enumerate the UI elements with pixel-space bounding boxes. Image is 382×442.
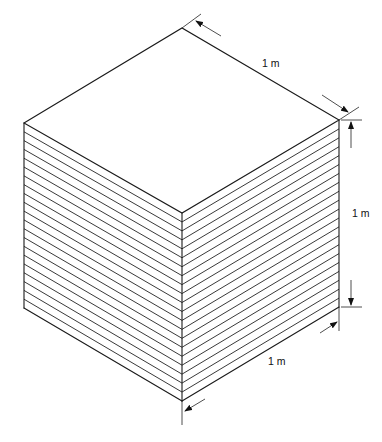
layer-line-left: [24, 149, 182, 239]
dimension-height: 1 m: [341, 120, 370, 307]
layer-line-right: [182, 254, 339, 348]
dimension-arrow: [320, 322, 337, 333]
layer-line-right: [182, 289, 339, 383]
layer-line-left: [24, 308, 182, 401]
layer-line-left: [24, 290, 182, 383]
dimension-label: 1 m: [262, 57, 280, 69]
layer-line-right: [182, 200, 339, 293]
layer-line-left: [24, 238, 182, 330]
layer-line-left: [24, 273, 182, 365]
dimension-label: 1 m: [268, 355, 286, 367]
extension-line: [182, 14, 201, 28]
layer-line-left: [24, 193, 182, 284]
layer-line-left: [24, 202, 182, 293]
layer-line-left: [24, 211, 182, 302]
layer-line-left: [24, 229, 182, 321]
layer-line-right: [182, 147, 339, 240]
layer-line-right: [182, 129, 339, 222]
layer-line-right: [182, 173, 339, 266]
layer-line-right: [182, 191, 339, 284]
layer-line-right: [182, 298, 339, 392]
dimension-arrow: [185, 399, 205, 411]
layer-line-right: [182, 218, 339, 312]
layer-line-right: [182, 156, 339, 249]
layer-line-left: [24, 246, 182, 338]
layer-line-right: [182, 227, 339, 321]
dimension-top: 1 m: [182, 14, 359, 120]
layer-line-left: [24, 255, 182, 347]
dimension-label: 1 m: [352, 207, 370, 219]
layer-line-right: [182, 138, 339, 231]
layer-line-left: [24, 299, 182, 392]
layer-line-right: [182, 165, 339, 258]
dimension-arrow: [322, 95, 348, 112]
stacked-cube-diagram: 1 m 1 m 1 m: [0, 0, 382, 442]
layer-line-left: [24, 141, 182, 231]
layer-line-right: [182, 262, 339, 356]
layer-line-right: [182, 307, 339, 401]
layer-line-right: [182, 182, 339, 275]
layer-line-right: [182, 280, 339, 374]
layer-line-left: [24, 176, 182, 267]
dimension-arrow: [196, 21, 221, 36]
layer-line-right: [182, 209, 339, 302]
layer-line-left: [24, 158, 182, 249]
layer-line-left: [24, 132, 182, 222]
layer-line-right: [182, 236, 339, 330]
layer-line-left: [24, 220, 182, 312]
layer-line-right: [182, 271, 339, 365]
layer-line-left: [24, 282, 182, 375]
layer-line-left: [24, 264, 182, 356]
layer-line-right: [182, 245, 339, 339]
extension-line: [339, 107, 359, 120]
layer-line-left: [24, 185, 182, 276]
layer-line-left: [24, 167, 182, 258]
